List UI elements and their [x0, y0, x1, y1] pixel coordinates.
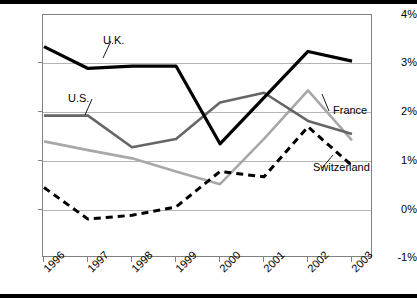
chart-page: 4% 3% 2% 1% 0% -1% 1996 1997 199	[0, 0, 417, 298]
y-tick-label-3: 3%	[379, 57, 417, 68]
y-tick-label-4: 4%	[379, 9, 417, 20]
series-label-us: U.S.	[68, 92, 89, 104]
bottom-rule	[0, 294, 417, 298]
y-tick-label-neg1: -1%	[379, 252, 417, 263]
series-label-uk: U.K.	[103, 34, 124, 46]
plot-area	[42, 14, 372, 257]
series-label-switzerland: Switzerland	[313, 161, 370, 173]
series-label-france: France	[333, 104, 367, 116]
y-tick-label-2: 2%	[379, 106, 417, 117]
line-uk	[44, 47, 352, 144]
y-tick-label-1: 1%	[379, 155, 417, 166]
series-lines	[43, 15, 373, 258]
y-tick-label-0: 0%	[379, 204, 417, 215]
top-rule	[0, 0, 417, 4]
line-us	[44, 93, 352, 147]
line-switzerland	[44, 127, 352, 219]
